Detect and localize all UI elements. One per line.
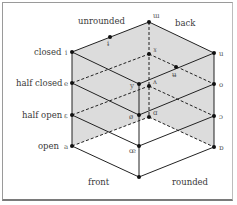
vowel-a: a [64,143,68,151]
label-front: front [88,177,110,187]
label-unrounded: unrounded [78,16,126,26]
label-back: back [175,18,196,28]
vowel-o: o [219,81,223,89]
vowel-e: e [64,80,68,88]
vowel-y: y [129,82,134,90]
vowel-oe: œ [129,147,136,155]
vowel-script-a: ɑ [153,109,158,117]
vowel-cube-diagram: unrounded back front rounded closed half… [0,0,237,205]
vowel-u: u [219,50,224,58]
label-closed: closed [34,47,62,57]
label-half-open: half open [22,110,63,120]
vowel-epsilon: ε [64,112,68,120]
label-half-closed: half closed [16,78,63,88]
vowel-o-slash: ø [129,113,133,121]
vowel-rams-horn: ɤ [153,46,157,54]
label-rounded: rounded [172,177,209,187]
vowel-turned-v: ʌ [152,78,157,86]
vowel-turned-script-a: ɒ [219,144,224,152]
vowel-barred-u: ʉ [172,71,177,79]
vowel-open-o: ɔ [219,113,223,121]
label-open: open [38,141,60,151]
vowel-i: i [65,49,68,57]
vowel-turned-m: ɯ [153,12,160,20]
